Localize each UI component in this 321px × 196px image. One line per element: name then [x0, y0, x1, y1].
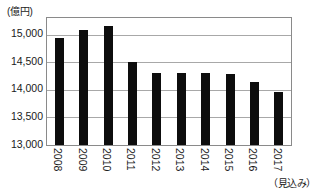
bar-2011	[128, 62, 137, 145]
bar-2016	[250, 82, 259, 146]
bars-layer	[47, 18, 291, 145]
bar-2008	[55, 38, 64, 145]
bar-2015	[226, 74, 235, 145]
bar-2013	[177, 73, 186, 145]
x-axis-tick-label-2015: 2015	[223, 148, 235, 171]
y-axis-unit-label: (億円)	[7, 6, 32, 18]
x-axis-tick-label-2012: 2012	[150, 148, 162, 171]
x-axis-tick-label-2016: 2016	[247, 148, 259, 171]
x-axis-tick-label-2017: 2017	[272, 148, 284, 171]
x-axis-tick-label-2009: 2009	[77, 148, 89, 171]
bar-chart: (億円) 13,00013,50014,00014,50015,000 2008…	[0, 0, 321, 196]
estimate-annotation: （見込み）	[268, 178, 316, 190]
x-axis-tick-label-2010: 2010	[101, 148, 113, 171]
bar-2012	[152, 73, 161, 145]
y-axis-tick-label: 14,500	[0, 56, 43, 67]
bar-2017	[274, 92, 283, 145]
x-axis-tick-label-2013: 2013	[174, 148, 186, 171]
x-axis-tick-labels: 2008200920102011201220132014201520162017	[46, 148, 292, 194]
bar-2010	[104, 26, 113, 145]
y-axis-tick-label: 13,500	[0, 111, 43, 122]
x-axis-tick-label-2011: 2011	[125, 148, 137, 171]
bar-2009	[79, 30, 88, 145]
y-axis-tick-label: 13,000	[0, 139, 43, 150]
bar-2014	[201, 73, 210, 145]
y-axis-tick-label: 15,000	[0, 28, 43, 39]
plot-area	[46, 17, 292, 146]
y-axis-tick-label: 14,000	[0, 83, 43, 94]
x-axis-tick-label-2014: 2014	[199, 148, 211, 171]
x-axis-tick-label-2008: 2008	[52, 148, 64, 171]
